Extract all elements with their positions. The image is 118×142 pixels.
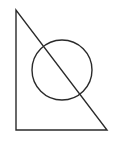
geometry-diagram (0, 0, 118, 142)
right-triangle (16, 10, 107, 130)
